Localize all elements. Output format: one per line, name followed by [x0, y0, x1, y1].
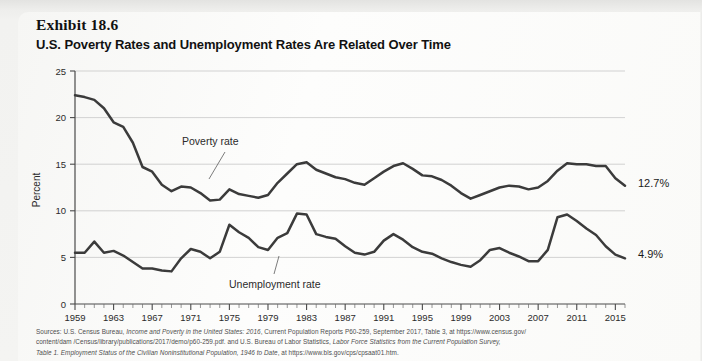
figure-card [18, 12, 702, 361]
sources-line1-italic: Income and Poverty in the United States:… [126, 328, 260, 335]
figure-heading-block: Exhibit 18.6 U.S. Poverty Rates and Unem… [36, 16, 656, 53]
sources-line1-part1: Sources: U.S. Census Bureau, [36, 328, 126, 335]
sources-note: Sources: U.S. Census Bureau, Income and … [36, 327, 676, 358]
page-title: U.S. Poverty Rates and Unemployment Rate… [36, 38, 656, 53]
sources-line3-part2: , at https://www.bls.gov/cps/cpsaat01.ht… [278, 349, 399, 356]
sources-line3-italic: Table 1. Employment Status of the Civili… [36, 349, 278, 356]
sources-line2-part1: content/dam /Census/library/publications… [36, 338, 333, 345]
sources-line2-italic: Labor Force Statistics from the Current … [333, 338, 501, 345]
sources-line1-part2: , Current Population Reports P60-259, Se… [261, 328, 526, 335]
exhibit-label: Exhibit 18.6 [36, 16, 656, 33]
